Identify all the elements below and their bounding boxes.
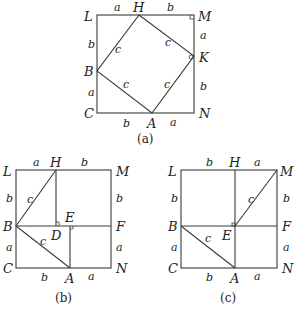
figure-a: L H M K B C A N a b b a a b b a c c c c … [83, 0, 212, 146]
side-MF: b [283, 192, 290, 205]
label-F: F [281, 219, 292, 234]
caption-a: (a) [137, 132, 154, 146]
label-H: H [132, 0, 145, 15]
side-LB: b [171, 192, 178, 205]
outer-square-a [97, 15, 194, 113]
side-MF: b [116, 192, 123, 205]
label-B: B [2, 219, 13, 234]
label-M: M [115, 164, 130, 179]
pythagorean-diagram: L H M K B C A N a b b a a b b a c c c c … [0, 0, 297, 316]
side-BC: a [171, 241, 178, 254]
label-H: H [49, 155, 62, 170]
label-M: M [197, 9, 212, 24]
side-AK: c [164, 78, 170, 91]
line-EM [235, 170, 277, 226]
label-L: L [167, 164, 177, 179]
side-AN: a [170, 116, 177, 129]
label-M: M [279, 164, 294, 179]
side-CA: b [41, 271, 48, 284]
line-BH [16, 170, 56, 226]
side-KN: b [200, 80, 207, 93]
angle-mark-k [189, 55, 193, 59]
label-N: N [198, 106, 211, 121]
label-H: H [228, 155, 241, 170]
label-A: A [146, 116, 156, 131]
side-BC: a [6, 241, 13, 254]
side-BH: c [27, 193, 33, 206]
label-N: N [115, 261, 128, 276]
label-B: B [167, 219, 178, 234]
label-K: K [198, 50, 210, 65]
side-CA: b [206, 271, 213, 284]
side-LH: a [114, 1, 121, 14]
label-D: D [50, 228, 62, 243]
side-LB: b [88, 38, 95, 51]
side-HM: a [254, 156, 261, 169]
side-FN: a [283, 241, 290, 254]
right-angle-mark-m [190, 15, 194, 19]
side-AN: a [88, 270, 95, 283]
caption-c: (c) [220, 291, 236, 305]
side-FN: a [116, 241, 123, 254]
inner-square-a [97, 15, 194, 113]
side-HK: c [165, 36, 171, 49]
figure-b: L H M B D E F C A N a b b a b a b a c c … [2, 155, 130, 305]
side-LH: a [33, 156, 40, 169]
side-LB: b [6, 192, 13, 205]
side-AN: a [254, 270, 261, 283]
side-LH: b [206, 156, 213, 169]
label-L: L [83, 9, 93, 24]
label-A: A [229, 271, 239, 286]
side-BA: c [123, 78, 129, 91]
side-HM: b [167, 1, 174, 14]
label-A: A [64, 271, 74, 286]
label-C: C [3, 261, 13, 276]
label-F: F [115, 219, 126, 234]
label-L: L [2, 164, 12, 179]
label-B: B [83, 64, 94, 79]
outer-square-c [181, 170, 277, 268]
caption-b: (b) [55, 291, 72, 305]
label-C: C [84, 106, 94, 121]
label-N: N [281, 261, 294, 276]
side-MK: a [200, 29, 207, 42]
side-BC: a [88, 86, 95, 99]
label-E: E [221, 228, 232, 243]
outer-square-b [16, 170, 111, 268]
label-C: C [168, 261, 178, 276]
side-HM: b [81, 156, 88, 169]
label-E: E [64, 210, 75, 225]
side-BA: c [40, 235, 46, 248]
side-BH: c [115, 43, 121, 56]
figure-c: L H M B E F C A N b a b a b a b a c c (c… [167, 155, 294, 305]
side-EM: c [248, 193, 254, 206]
side-BA: c [205, 232, 211, 245]
side-CA: b [123, 117, 130, 130]
